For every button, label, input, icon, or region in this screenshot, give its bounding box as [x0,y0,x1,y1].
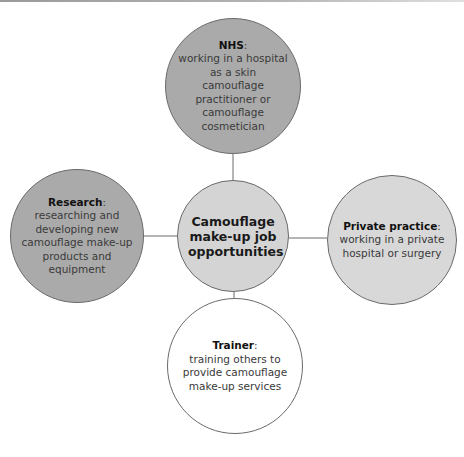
trainer-description: training others to provide camouflage ma… [183,353,287,392]
center-node: Camouflage make-up job opportunities [177,180,289,292]
nhs-description: working in a hospital as a skin camoufla… [178,52,287,132]
trainer-title: Trainer [212,339,254,351]
private-practice-title: Private practice [343,220,437,232]
research-node: Research: researching and developing new… [10,169,144,303]
private-practice-node: Private practice: working in a private h… [327,175,457,305]
private-practice-description: working in a private hospital or surgery [340,233,445,259]
nhs-node: NHS: working in a hospital as a skin cam… [165,18,301,154]
trainer-node: Trainer: training others to provide camo… [167,298,303,434]
research-title: Research [48,196,103,208]
nhs-title: NHS [219,39,244,51]
center-label: Camouflage make-up job opportunities [188,214,283,259]
research-description: researching and developing new camouflag… [22,209,133,275]
